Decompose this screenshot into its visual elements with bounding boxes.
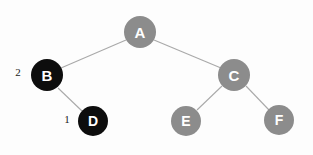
node-c-label: C (229, 67, 240, 84)
node-e-label: E (181, 113, 190, 129)
tree-canvas: A B C D E F 2 1 (0, 0, 313, 155)
node-a-label: A (135, 24, 146, 41)
node-b[interactable]: B (31, 59, 63, 91)
edge-b-d (58, 88, 82, 111)
edge-a-b (61, 40, 126, 68)
node-c[interactable]: C (218, 59, 250, 91)
edge-c-f (246, 86, 269, 110)
edge-c-e (197, 86, 222, 110)
node-b-label: B (42, 67, 53, 84)
node-d-label: D (88, 113, 98, 129)
node-a[interactable]: A (124, 16, 156, 48)
node-f-label: F (275, 112, 284, 128)
node-d[interactable]: D (78, 106, 108, 136)
edge-a-c (154, 40, 221, 68)
weight-label-d: 1 (64, 113, 70, 125)
node-f[interactable]: F (264, 105, 294, 135)
node-e[interactable]: E (171, 106, 201, 136)
weight-label-b: 2 (15, 66, 21, 78)
binary-tree-diagram: A B C D E F 2 1 (0, 0, 313, 155)
